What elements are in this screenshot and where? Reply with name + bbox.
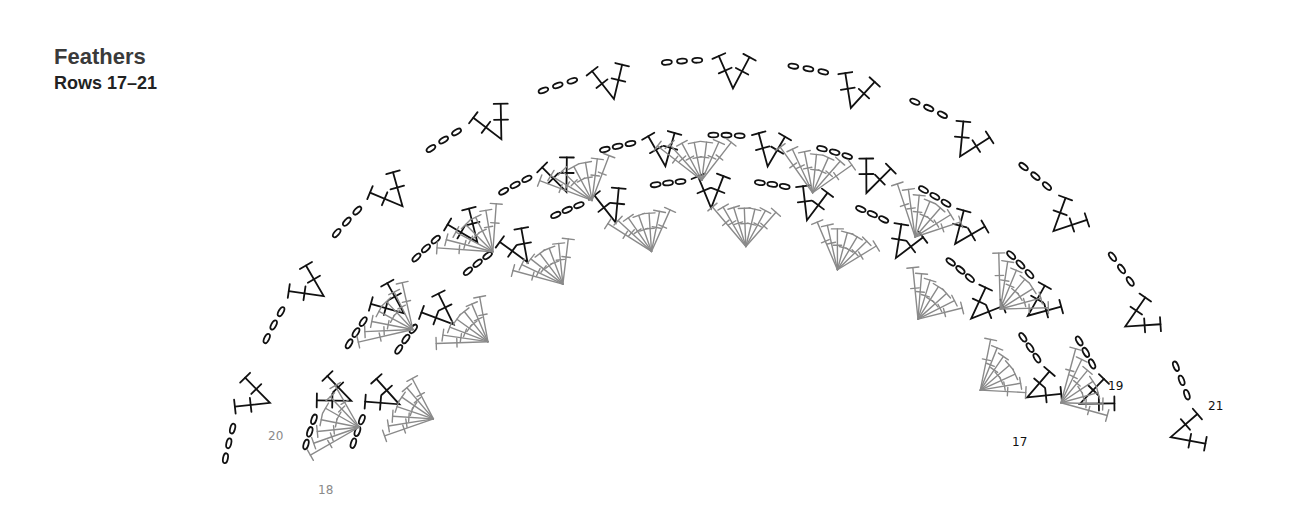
v-stitch-icon — [1125, 298, 1160, 327]
chain-stitch-icon — [779, 183, 790, 190]
chain-stitch-icon — [358, 414, 366, 425]
row-label-18: 18 — [318, 483, 333, 497]
chain-stitch-icon — [818, 68, 829, 75]
chain-stitch-icon — [788, 63, 799, 69]
chain-stitch-icon — [401, 334, 411, 345]
chain-stitch-icon — [510, 180, 521, 189]
v-stitch-icon — [365, 379, 399, 404]
feather-fan-icon — [654, 139, 736, 181]
feather-fan-icon — [605, 207, 676, 251]
chain-stitch-icon — [767, 181, 778, 187]
v-stitch-icon — [971, 288, 1003, 319]
chain-stitch-icon — [625, 140, 636, 147]
chain-stitch-icon — [1075, 335, 1084, 346]
crochet-stitch-chart: 1718192021 — [0, 0, 1301, 506]
v-stitch-icon — [592, 65, 622, 99]
chain-stitch-icon — [538, 86, 549, 94]
v-stitch-icon — [1053, 198, 1086, 231]
chain-stitch-icon — [1018, 162, 1029, 172]
chain-stitch-icon — [498, 187, 509, 196]
chain-stitch-icon — [350, 438, 358, 449]
chain-stitch-icon — [1025, 342, 1035, 353]
chain-stitch-icon — [965, 273, 976, 283]
chain-stitch-icon — [425, 144, 436, 154]
chain-stitch-icon — [269, 319, 278, 330]
chain-stitch-icon — [923, 104, 934, 113]
chain-stitch-icon — [342, 216, 352, 227]
chain-stitch-icon — [1018, 332, 1028, 343]
chain-stitch-icon — [352, 205, 362, 216]
chain-stitch-icon — [599, 146, 610, 153]
v-stitch-icon — [421, 294, 453, 325]
chain-stitch-icon — [929, 192, 940, 201]
chain-stitch-icon — [803, 66, 814, 73]
feather-fan-icon — [511, 238, 574, 284]
chain-stitch-icon — [229, 423, 236, 434]
chain-stitch-icon — [550, 211, 561, 220]
chain-stitch-icon — [302, 439, 309, 450]
chain-stitch-icon — [262, 333, 271, 344]
chain-stitch-icon — [878, 215, 889, 224]
chain-stitch-icon — [310, 414, 318, 425]
row-label-19: 19 — [1108, 379, 1123, 393]
feather-fan-icon — [1061, 347, 1109, 421]
chain-stitch-icon — [451, 127, 462, 136]
row-labels: 1718192021 — [268, 379, 1223, 497]
chain-stitch-icon — [1030, 171, 1041, 181]
chain-stitch-icon — [1088, 358, 1097, 369]
chain-stitch-icon — [909, 97, 920, 105]
chain-stitch-icon — [1108, 251, 1118, 262]
row-label-17: 17 — [1012, 435, 1027, 449]
chain-stitch-icon — [735, 133, 745, 138]
chain-stitch-icon — [1178, 375, 1186, 386]
chain-stitch-icon — [421, 243, 432, 253]
chain-stitch-icon — [677, 58, 687, 63]
chain-stitch-icon — [937, 110, 948, 119]
chain-stitch-icon — [662, 59, 672, 65]
chain-stitch-icon — [394, 344, 404, 355]
chain-stitch-icon — [1081, 347, 1090, 358]
feather-fan-icon — [980, 338, 1026, 398]
chain-stitch-icon — [562, 206, 573, 214]
v-stitch-icon — [473, 104, 501, 139]
chain-stitch-icon — [344, 338, 353, 349]
chain-stitch-icon — [1042, 181, 1053, 191]
row-17 — [350, 174, 1062, 449]
chain-stitch-icon — [1032, 353, 1041, 364]
row-label-21: 21 — [1208, 399, 1223, 413]
chain-stitch-icon — [867, 210, 878, 219]
chain-stitch-icon — [573, 201, 584, 209]
chain-stitch-icon — [941, 199, 952, 208]
v-stitch-icon — [759, 133, 785, 166]
row-label-20: 20 — [268, 429, 283, 443]
v-stitch-icon — [1027, 371, 1061, 397]
chain-stitch-icon — [1024, 269, 1034, 280]
chain-stitch-icon — [552, 82, 563, 90]
chain-stitch-icon — [1015, 259, 1025, 270]
chain-stitch-icon — [650, 182, 661, 188]
chain-stitch-icon — [222, 453, 229, 464]
chain-stitch-icon — [612, 143, 623, 150]
chain-stitch-icon — [430, 235, 441, 245]
chain-stitch-icon — [276, 306, 285, 317]
chain-stitch-icon — [855, 205, 866, 213]
chain-stitch-icon — [463, 266, 474, 276]
chain-stitch-icon — [817, 145, 828, 152]
v-stitch-icon — [500, 228, 528, 262]
chain-stitch-icon — [675, 179, 685, 185]
chain-stitch-icon — [663, 180, 674, 186]
chain-stitch-icon — [708, 133, 718, 138]
chain-stitch-icon — [358, 316, 368, 327]
chain-stitch-icon — [842, 152, 853, 160]
v-stitch-icon — [955, 211, 985, 244]
feather-fan-icon — [383, 376, 434, 442]
v-stitch-icon — [289, 266, 324, 296]
chain-stitch-icon — [351, 327, 360, 338]
chain-stitch-icon — [472, 258, 483, 268]
feather-fan-icon — [538, 153, 615, 200]
chain-stitch-icon — [438, 135, 449, 144]
v-stitch-icon — [960, 121, 990, 156]
chain-stitch-icon — [225, 438, 232, 449]
chain-stitch-icon — [306, 426, 314, 437]
chain-stitch-icon — [1006, 250, 1017, 260]
